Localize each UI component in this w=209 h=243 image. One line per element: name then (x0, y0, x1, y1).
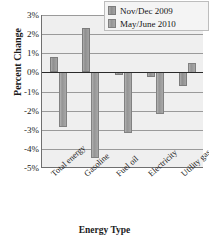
bar (124, 72, 132, 133)
bar (59, 72, 67, 127)
bar (50, 57, 58, 72)
legend-swatch-icon (108, 6, 116, 15)
bar (82, 28, 90, 72)
plot-area (41, 15, 203, 168)
x-axis-category-labels: Total energyGasolineFuel oilElectricityU… (41, 168, 209, 226)
x-axis-title: Energy Type (0, 225, 209, 235)
y-axis-tick-labels: 3%2%1%0%-1%-2%-3%-4%-5% (0, 15, 39, 168)
legend-label: Nov/Dec 2009 (120, 6, 173, 16)
y-tick-label: -3% (3, 125, 39, 135)
y-tick-label: -5% (3, 163, 39, 173)
y-tick-label: 1% (3, 48, 39, 58)
bars-layer (42, 15, 203, 167)
percent-change-bar-chart: Percent Change 3%2%1%0%-1%-2%-3%-4%-5% T… (0, 0, 209, 243)
zero-line (42, 72, 203, 73)
bar (179, 72, 187, 86)
y-tick-label: -1% (3, 87, 39, 97)
bar (156, 72, 164, 114)
y-tick-label: -2% (3, 106, 39, 116)
bar (91, 72, 99, 158)
y-tick-label: 0% (3, 67, 39, 77)
y-tick-label: -4% (3, 144, 39, 154)
y-tick-label: 3% (3, 10, 39, 20)
y-tick-label: 2% (3, 29, 39, 39)
